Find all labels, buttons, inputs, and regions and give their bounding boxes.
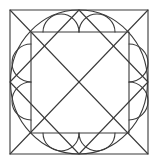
diagram-shapes	[10, 10, 148, 154]
geometric-diagram	[0, 0, 156, 162]
